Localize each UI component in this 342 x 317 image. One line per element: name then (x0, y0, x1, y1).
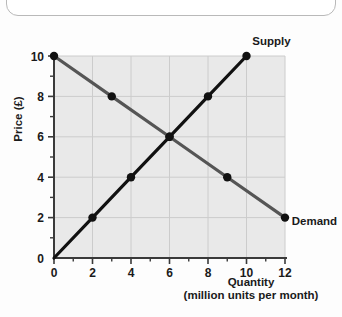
data-point-supply-2-2 (88, 213, 96, 221)
x-tick-label-2: 2 (89, 266, 96, 280)
data-point-demand-9-4 (223, 173, 231, 181)
y-tick-label-4: 4 (37, 171, 44, 185)
data-point-demand-12-2 (281, 213, 289, 221)
data-point-demand-0-10 (50, 52, 58, 60)
y-tick-label-6: 6 (37, 130, 44, 144)
y-tick-label-0: 0 (37, 252, 44, 266)
data-point-supply-8-8 (204, 92, 212, 100)
x-axis-title: Quantity (228, 276, 275, 288)
x-tick-label-4: 4 (128, 266, 135, 280)
supply-demand-chart-figure: 024681012 0246810 SupplyDemand Price (£)… (0, 22, 342, 317)
x-tick-label-12: 12 (278, 266, 292, 280)
top-rounded-box-edge (6, 0, 336, 16)
data-point-demand-6-6 (165, 133, 173, 141)
data-point-demand-3-8 (108, 92, 116, 100)
series-label-demand: Demand (292, 215, 337, 227)
y-axis-title: Price (£) (12, 96, 24, 142)
x-tick-label-6: 6 (166, 266, 173, 280)
y-tick-label-10: 10 (31, 50, 45, 64)
page-root: 024681012 0246810 SupplyDemand Price (£)… (0, 0, 342, 317)
data-point-supply-4-4 (127, 173, 135, 181)
x-tick-label-8: 8 (205, 266, 212, 280)
x-axis-subtitle: (million units per month) (184, 289, 319, 301)
series-label-supply: Supply (252, 35, 291, 47)
y-axis-tick-labels: 0246810 (31, 50, 45, 266)
data-point-supply-10-10 (242, 52, 250, 60)
supply-demand-chart: 024681012 0246810 SupplyDemand Price (£)… (0, 22, 342, 317)
y-tick-label-2: 2 (37, 211, 44, 225)
y-tick-label-8: 8 (37, 90, 44, 104)
x-tick-label-0: 0 (51, 266, 58, 280)
